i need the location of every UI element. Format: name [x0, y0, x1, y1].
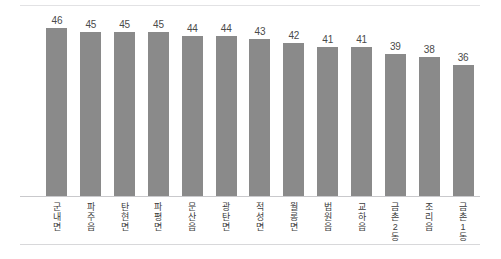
- bar-item: 42: [277, 8, 311, 196]
- bar-value-label: 41: [356, 34, 367, 45]
- bar-rect: [182, 36, 203, 196]
- category-tick-char: 리: [425, 212, 433, 222]
- bar-value-label: 39: [390, 41, 401, 52]
- bar-chart-figure: 46454545444443424141393836 군내면파주읍탄현면파평면문…: [0, 0, 501, 259]
- category-tick-char: 산: [188, 212, 196, 222]
- bar-item: 45: [108, 8, 142, 196]
- bar-item: 44: [209, 8, 243, 196]
- bar-value-label: 44: [221, 23, 232, 34]
- top-divider-rule: [20, 5, 480, 6]
- category-tick-char: 면: [290, 222, 298, 232]
- category-tick-char: 금: [459, 202, 467, 212]
- bar-rect: [148, 32, 169, 196]
- bar-item: 46: [40, 8, 74, 196]
- bar-value-label: 36: [458, 52, 469, 63]
- bar-item: 36: [446, 8, 480, 196]
- bar-rect: [385, 54, 406, 196]
- bar-item: 41: [345, 8, 379, 196]
- category-tick-label: 광탄면: [209, 199, 243, 244]
- bottom-divider-rule: [20, 244, 480, 245]
- category-tick-label: 군내면: [40, 199, 74, 244]
- bar-rect: [46, 28, 67, 196]
- bar-item: 44: [175, 8, 209, 196]
- bar-value-label: 45: [85, 19, 96, 30]
- bar-rect: [453, 65, 474, 196]
- category-tick-char: 파: [87, 202, 95, 212]
- bar-value-label: 45: [153, 19, 164, 30]
- bar-rect: [317, 47, 338, 196]
- category-tick-char: 1: [461, 222, 466, 232]
- category-tick-label: 문산읍: [175, 199, 209, 244]
- bar-item: 39: [378, 8, 412, 196]
- category-tick-char: 롱: [290, 212, 298, 222]
- category-tick-char: 읍: [425, 222, 433, 232]
- category-tick-label: 법원읍: [311, 199, 345, 244]
- category-tick-char: 면: [53, 222, 61, 232]
- bar-item: 41: [311, 8, 345, 196]
- category-axis-line: [20, 196, 480, 197]
- category-tick-label: 파주읍: [74, 199, 108, 244]
- bar-value-label: 44: [187, 23, 198, 34]
- plot-area: 46454545444443424141393836: [20, 8, 480, 196]
- category-tick-char: 읍: [188, 222, 196, 232]
- category-tick-char: 조: [425, 202, 433, 212]
- bar-item: 43: [243, 8, 277, 196]
- bar-item: 45: [74, 8, 108, 196]
- category-tick-char: 읍: [358, 222, 366, 232]
- category-tick-char: 내: [53, 212, 61, 222]
- category-tick-char: 면: [121, 222, 129, 232]
- bar-value-label: 45: [119, 19, 130, 30]
- category-tick-label: 적성면: [243, 199, 277, 244]
- category-tick-char: 원: [324, 212, 332, 222]
- bar-value-label: 41: [322, 34, 333, 45]
- category-tick-label: 월롱면: [277, 199, 311, 244]
- category-tick-char: 주: [87, 212, 95, 222]
- category-tick-char: 군: [53, 202, 61, 212]
- category-tick-char: 읍: [87, 222, 95, 232]
- bar-item: 45: [142, 8, 176, 196]
- bar-value-label: 46: [52, 15, 63, 26]
- bar-rect: [283, 43, 304, 196]
- bar-item: 38: [412, 8, 446, 196]
- bar-value-label: 43: [255, 26, 266, 37]
- category-tick-label: 금촌2동: [378, 199, 412, 244]
- category-tick-char: 교: [358, 202, 366, 212]
- category-tick-char: 성: [256, 212, 264, 222]
- category-tick-char: 하: [358, 212, 366, 222]
- category-tick-label: 금촌1동: [446, 199, 480, 244]
- bar-rect: [216, 36, 237, 196]
- bar-rect: [351, 47, 372, 196]
- category-tick-char: 파: [154, 202, 162, 212]
- category-tick-label: 교하읍: [345, 199, 379, 244]
- bar-series: 46454545444443424141393836: [20, 8, 480, 196]
- category-tick-char: 현: [121, 212, 129, 222]
- category-tick-char: 동: [391, 232, 399, 242]
- category-tick-char: 월: [290, 202, 298, 212]
- bar-rect: [114, 32, 135, 196]
- category-tick-char: 2: [393, 222, 398, 232]
- category-tick-char: 동: [459, 232, 467, 242]
- category-tick-char: 탄: [121, 202, 129, 212]
- category-tick-char: 읍: [324, 222, 332, 232]
- bar-rect: [419, 57, 440, 196]
- category-tick-char: 평: [154, 212, 162, 222]
- category-tick-label: 파평면: [142, 199, 176, 244]
- category-tick-char: 광: [222, 202, 230, 212]
- category-axis-labels: 군내면파주읍탄현면파평면문산읍광탄면적성면월롱면법원읍교하읍금촌2동조리읍금촌1…: [20, 199, 480, 244]
- category-tick-label: 탄현면: [108, 199, 142, 244]
- category-tick-char: 면: [154, 222, 162, 232]
- category-tick-char: 촌: [459, 212, 467, 222]
- category-tick-char: 금: [391, 202, 399, 212]
- bar-rect: [80, 32, 101, 196]
- category-tick-char: 면: [256, 222, 264, 232]
- category-tick-char: 문: [188, 202, 196, 212]
- bar-value-label: 42: [288, 30, 299, 41]
- category-tick-char: 적: [256, 202, 264, 212]
- bar-value-label: 38: [424, 44, 435, 55]
- category-tick-char: 법: [324, 202, 332, 212]
- category-tick-char: 탄: [222, 212, 230, 222]
- bar-rect: [249, 39, 270, 196]
- category-tick-label: 조리읍: [412, 199, 446, 244]
- category-tick-char: 촌: [391, 212, 399, 222]
- category-tick-char: 면: [222, 222, 230, 232]
